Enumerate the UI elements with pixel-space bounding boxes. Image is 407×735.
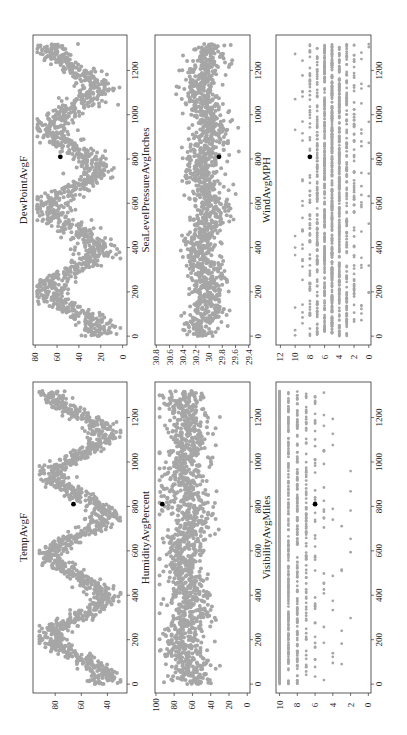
x-tick-label: 400 (253, 588, 263, 602)
y-tick-label: 2 (349, 355, 359, 360)
x-tick-label: 1200 (374, 61, 384, 80)
highlighted-point (71, 502, 76, 507)
scatter-panel-dewpointavgf: 020040060080010001200020406080DewPointAv… (17, 35, 140, 362)
highlighted-point (58, 154, 63, 159)
x-tick-label: 0 (253, 681, 263, 686)
y-tick-label: 80 (30, 352, 40, 362)
y-tick-label: 20 (96, 352, 106, 362)
x-tick-label: 0 (130, 333, 140, 338)
y-tick-label: 20 (224, 700, 234, 710)
scatter-panel-tempavgf: 020040060080010001200406080TempAvgF (17, 382, 140, 710)
x-tick-label: 800 (374, 499, 384, 513)
y-tick-label: 12 (275, 353, 285, 362)
y-tick-label: 80 (169, 700, 179, 710)
x-tick-label: 0 (253, 333, 263, 338)
x-tick-label: 1000 (374, 105, 384, 124)
x-tick-label: 600 (374, 544, 384, 558)
x-tick-label: 200 (253, 632, 263, 646)
y-tick-label: 30 (204, 352, 214, 362)
panel-title: VisibilityAvgMiles (260, 495, 272, 579)
y-tick-label: 30.8 (151, 349, 161, 365)
x-tick-label: 1000 (253, 105, 263, 124)
y-tick-label: 8 (305, 354, 315, 359)
x-tick-label: 400 (374, 588, 384, 602)
x-tick-label: 1200 (130, 408, 140, 427)
x-tick-label: 400 (130, 588, 140, 602)
x-tick-label: 800 (374, 152, 384, 166)
y-tick-label: 40 (74, 352, 84, 362)
scatter-panel-sealevelpressureavginches: 02004006008001000120029.429.629.83030.23… (139, 35, 263, 365)
panel-title: SeaLevelPressureAvgInches (139, 127, 151, 252)
panel-title: DewPointAvgF (17, 156, 29, 224)
x-tick-label: 0 (374, 333, 384, 338)
x-tick-label: 1200 (130, 61, 140, 80)
highlighted-point (160, 502, 165, 507)
x-tick-label: 600 (374, 196, 384, 210)
highlighted-point (313, 502, 318, 507)
x-tick-label: 200 (130, 285, 140, 299)
y-tick-label: 40 (206, 700, 216, 710)
plot-frame (276, 382, 371, 693)
panel-title: HumidityAvgPercent (139, 491, 151, 584)
x-tick-label: 1200 (253, 61, 263, 80)
x-tick-label: 1000 (130, 452, 140, 471)
x-tick-label: 400 (253, 240, 263, 254)
data-points (174, 42, 241, 338)
x-tick-label: 1000 (253, 452, 263, 471)
y-tick-label: 0 (118, 354, 128, 359)
x-tick-label: 0 (130, 681, 140, 686)
panel-title: WindAvgMPH (260, 157, 272, 223)
x-tick-label: 200 (253, 285, 263, 299)
y-tick-label: 60 (187, 700, 197, 710)
y-tick-label: 100 (151, 698, 161, 712)
data-points (294, 43, 370, 338)
y-tick-label: 60 (52, 352, 62, 362)
x-tick-label: 400 (374, 240, 384, 254)
y-tick-label: 2 (346, 703, 356, 708)
panel-title: TempAvgF (17, 513, 29, 562)
highlighted-point (307, 154, 312, 159)
data-points (158, 389, 222, 686)
y-tick-label: 8 (292, 702, 302, 707)
highlighted-point (217, 154, 222, 159)
y-tick-label: 30.6 (165, 349, 175, 365)
data-points (278, 390, 352, 686)
y-tick-label: 80 (50, 700, 60, 710)
data-points (35, 42, 122, 338)
y-tick-label: 0 (363, 702, 373, 707)
x-tick-label: 1200 (253, 408, 263, 427)
scatter-panel-windavgmph: 020040060080010001200024681012WindAvgMPH (260, 35, 384, 362)
y-tick-label: 30.2 (191, 349, 201, 365)
y-tick-label: 40 (102, 700, 112, 710)
scatter-grid-figure: 020040060080010001200020406080DewPointAv… (0, 0, 407, 735)
x-tick-label: 200 (374, 285, 384, 299)
y-tick-label: 4 (328, 702, 338, 707)
scatter-panel-visibilityavgmiles: 0200400600800100012000246810VisibilityAv… (260, 382, 384, 710)
scatter-panel-humidityavgpercent: 020040060080010001200020406080100Humidit… (139, 382, 263, 712)
x-tick-label: 200 (374, 632, 384, 646)
y-tick-label: 29.6 (230, 349, 240, 365)
y-tick-label: 29.8 (217, 349, 227, 365)
x-tick-label: 1200 (374, 408, 384, 427)
x-tick-label: 1000 (374, 452, 384, 471)
x-tick-label: 0 (374, 681, 384, 686)
y-tick-label: 6 (310, 702, 320, 707)
y-tick-label: 30.4 (178, 349, 188, 365)
y-tick-label: 10 (275, 700, 285, 710)
y-tick-label: 60 (76, 700, 86, 710)
y-tick-label: 0 (242, 702, 252, 707)
y-tick-label: 0 (364, 354, 374, 359)
y-tick-label: 10 (290, 352, 300, 362)
y-tick-label: 6 (320, 354, 330, 359)
y-tick-label: 29.4 (244, 349, 254, 365)
x-tick-label: 1000 (130, 105, 140, 124)
data-points (38, 389, 123, 686)
y-tick-label: 4 (334, 354, 344, 359)
x-tick-label: 200 (130, 632, 140, 646)
